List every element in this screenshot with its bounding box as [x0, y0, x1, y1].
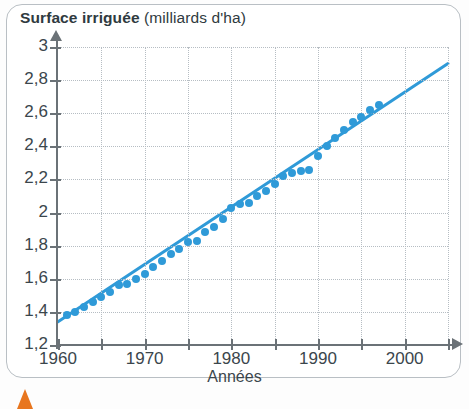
data-point [141, 270, 149, 278]
data-point [167, 250, 175, 258]
y-axis-tick [50, 246, 61, 248]
y-axis-tick [50, 113, 61, 115]
x-axis-tick [361, 339, 363, 350]
gridline-vertical [231, 47, 232, 345]
gridline-vertical [405, 47, 406, 345]
y-axis-tick-label: 1,8 [24, 235, 48, 255]
y-axis-tick [50, 312, 61, 314]
gridline-horizontal [58, 80, 448, 81]
x-axis-tick-label: 1980 [201, 349, 261, 369]
chart-title-main: Surface irriguée [20, 9, 140, 26]
gridline-vertical [361, 47, 362, 345]
gridline-horizontal [58, 146, 448, 147]
gridline-vertical [275, 47, 276, 345]
data-point [349, 118, 357, 126]
x-axis-arrow-icon [452, 338, 463, 350]
x-axis-tick [448, 339, 450, 350]
gridline-horizontal [58, 213, 448, 214]
y-axis-tick [50, 213, 61, 215]
data-point [375, 101, 383, 109]
gridline-horizontal [58, 312, 448, 313]
data-point [297, 167, 305, 175]
x-axis-tick [145, 339, 147, 350]
y-axis-tick [50, 279, 61, 281]
gridline-vertical [145, 47, 146, 345]
gridline-horizontal [58, 279, 448, 280]
x-axis-tick [405, 339, 407, 350]
data-point [305, 166, 313, 174]
gridline-horizontal [58, 113, 448, 114]
data-point [193, 237, 201, 245]
gridline-horizontal [58, 246, 448, 247]
y-axis-arrow-icon [50, 30, 62, 41]
data-point [132, 275, 140, 283]
plot-area [58, 47, 448, 345]
data-point [340, 126, 348, 134]
data-point [366, 106, 374, 114]
y-axis-tick [50, 146, 61, 148]
data-point [219, 215, 227, 223]
x-axis-tick [188, 339, 190, 350]
gridline-vertical [188, 47, 189, 345]
y-axis-tick [50, 47, 61, 49]
x-axis-tick [231, 339, 233, 350]
data-point [80, 303, 88, 311]
data-point [158, 257, 166, 265]
y-axis-line [56, 40, 58, 349]
y-axis-tick [50, 179, 61, 181]
x-axis-tick [318, 339, 320, 350]
y-axis-tick-label: 2,2 [24, 168, 48, 188]
data-point [323, 142, 331, 150]
data-point [288, 169, 296, 177]
y-axis-tick-label: 2,6 [24, 102, 48, 122]
data-point [106, 288, 114, 296]
y-axis-tick-label: 1,6 [24, 268, 48, 288]
x-axis-tick-label: 1990 [288, 349, 348, 369]
page-title: Surface irriguée (milliards d'ha) [20, 9, 246, 27]
data-point [227, 204, 235, 212]
x-axis-tick [275, 339, 277, 350]
x-axis-tick-label: 2000 [375, 349, 435, 369]
y-axis-tick-label: 2 [39, 202, 48, 222]
x-axis-tick-label: 1960 [28, 349, 88, 369]
y-axis-tick-label: 2,8 [24, 69, 48, 89]
x-axis-title: Années [0, 368, 469, 386]
data-point [262, 187, 270, 195]
data-point [357, 113, 365, 121]
gridline-horizontal [58, 47, 448, 48]
data-point [245, 199, 253, 207]
data-point [89, 298, 97, 306]
gridline-vertical [318, 47, 319, 345]
x-axis-tick [101, 339, 103, 350]
y-axis-tick [50, 80, 61, 82]
data-point [63, 311, 71, 319]
x-axis-line [56, 344, 454, 346]
x-axis-tick [58, 339, 60, 350]
figure-root: Surface irriguée (milliards d'ha) 1,21,4… [0, 0, 469, 409]
y-axis-tick-label: 2,4 [24, 135, 48, 155]
x-axis-tick-label: 1970 [115, 349, 175, 369]
y-axis-tick-label: 1,4 [24, 301, 48, 321]
gridline-horizontal [58, 179, 448, 180]
y-axis-tick-label: 3 [39, 36, 48, 56]
gridline-vertical [448, 47, 449, 345]
orange-triangle-icon [17, 389, 33, 409]
chart-title-unit: (milliards d'ha) [144, 9, 246, 26]
